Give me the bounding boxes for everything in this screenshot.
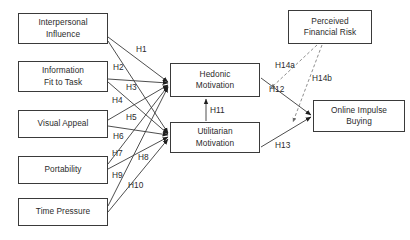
node-label: Utilitarian Motivation xyxy=(193,126,237,149)
node-hedonic-motivation[interactable]: Hedonic Motivation xyxy=(170,63,260,97)
node-interpersonal-influence[interactable]: Interpersonal Influence xyxy=(18,13,108,44)
node-utilitarian-motivation[interactable]: Utilitarian Motivation xyxy=(170,122,260,153)
hypothesis-label-h6: H6 xyxy=(113,131,124,141)
node-label: Information Fit to Task xyxy=(39,65,87,88)
hypothesis-label-h14b: H14b xyxy=(312,73,332,83)
node-label: Online Impulse Buying xyxy=(328,105,390,128)
hypothesis-label-h8: H8 xyxy=(138,152,149,162)
hypothesis-label-h9: H9 xyxy=(112,170,123,180)
node-visual-appeal[interactable]: Visual Appeal xyxy=(18,110,108,138)
hypothesis-label-h2: H2 xyxy=(113,62,124,72)
hypothesis-label-h13: H13 xyxy=(275,140,290,150)
node-portability[interactable]: Portability xyxy=(18,156,108,184)
node-time-pressure[interactable]: Time Pressure xyxy=(18,198,108,226)
node-perceived-financial-risk[interactable]: Perceived Financial Risk xyxy=(288,10,372,44)
hypothesis-label-h7: H7 xyxy=(112,148,123,158)
node-label: Visual Appeal xyxy=(35,118,92,130)
hypothesis-label-h12: H12 xyxy=(269,84,284,94)
path-h2 xyxy=(108,41,168,133)
hypothesis-label-h11: H11 xyxy=(210,105,225,115)
node-label: Time Pressure xyxy=(33,206,93,218)
hypothesis-label-h1: H1 xyxy=(136,44,147,54)
node-information-fit-to-task[interactable]: Information Fit to Task xyxy=(18,61,108,92)
node-label: Interpersonal Influence xyxy=(35,17,90,40)
hypothesis-label-h14a: H14a xyxy=(275,60,295,70)
hypothesis-label-h10: H10 xyxy=(128,180,143,190)
node-online-impulse-buying[interactable]: Online Impulse Buying xyxy=(313,100,405,132)
node-label: Portability xyxy=(42,164,85,176)
node-label: Perceived Financial Risk xyxy=(301,16,359,39)
path-h3 xyxy=(108,79,168,83)
node-label: Hedonic Motivation xyxy=(193,69,237,92)
hypothesis-label-h3: H3 xyxy=(126,82,137,92)
diagram-canvas: Interpersonal Influence Information Fit … xyxy=(0,0,410,240)
hypothesis-label-h5: H5 xyxy=(126,112,137,122)
hypothesis-label-h4: H4 xyxy=(112,95,123,105)
